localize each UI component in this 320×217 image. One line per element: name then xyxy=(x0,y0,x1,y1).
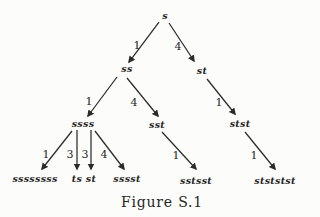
edge-s-st xyxy=(169,23,194,61)
edge-ssss-sssst xyxy=(95,131,124,169)
node-st: st xyxy=(197,65,208,76)
node-ssssssss: ssssssss xyxy=(12,173,58,184)
edge-label-s-st: 4 xyxy=(175,40,182,53)
node-sstsst: sstsst xyxy=(180,175,212,186)
node-s: s xyxy=(162,10,168,21)
edge-label-st-stst: 1 xyxy=(216,96,223,109)
edge-label-sst-sstsst: 1 xyxy=(173,149,180,162)
edge-label-ssss-sssst: 4 xyxy=(101,148,108,161)
node-sssst: sssst xyxy=(113,173,141,184)
edge-label-ss-sst: 4 xyxy=(131,96,138,109)
edge-stst-stststst xyxy=(245,132,275,169)
edge-label-ss-ssss: 1 xyxy=(86,95,93,108)
figure-caption: Figure S.1 xyxy=(121,194,203,210)
edge-label-ssss-ssssssss: 1 xyxy=(43,148,50,161)
figure-s1: 1 4 1 4 1 1 3 3 4 1 1 s ss st ssss sst s… xyxy=(0,0,320,217)
edge-label-ssss-ts: 3 xyxy=(67,148,74,161)
node-stststst: stststst xyxy=(254,175,296,186)
node-sst: sst xyxy=(149,119,165,130)
tree-diagram: 1 4 1 4 1 1 3 3 4 1 1 s ss st ssss sst s… xyxy=(0,0,320,217)
node-ss: ss xyxy=(121,63,133,74)
edge-label-s-ss: 1 xyxy=(134,39,141,52)
node-stst: stst xyxy=(230,118,251,129)
node-ts: ts xyxy=(72,173,83,184)
edge-label-ssss-st-leaf: 3 xyxy=(82,148,89,161)
edge-label-stst-stststst: 1 xyxy=(251,149,258,162)
node-ssss: ssss xyxy=(72,118,95,129)
node-st-leaf: st xyxy=(86,173,97,184)
